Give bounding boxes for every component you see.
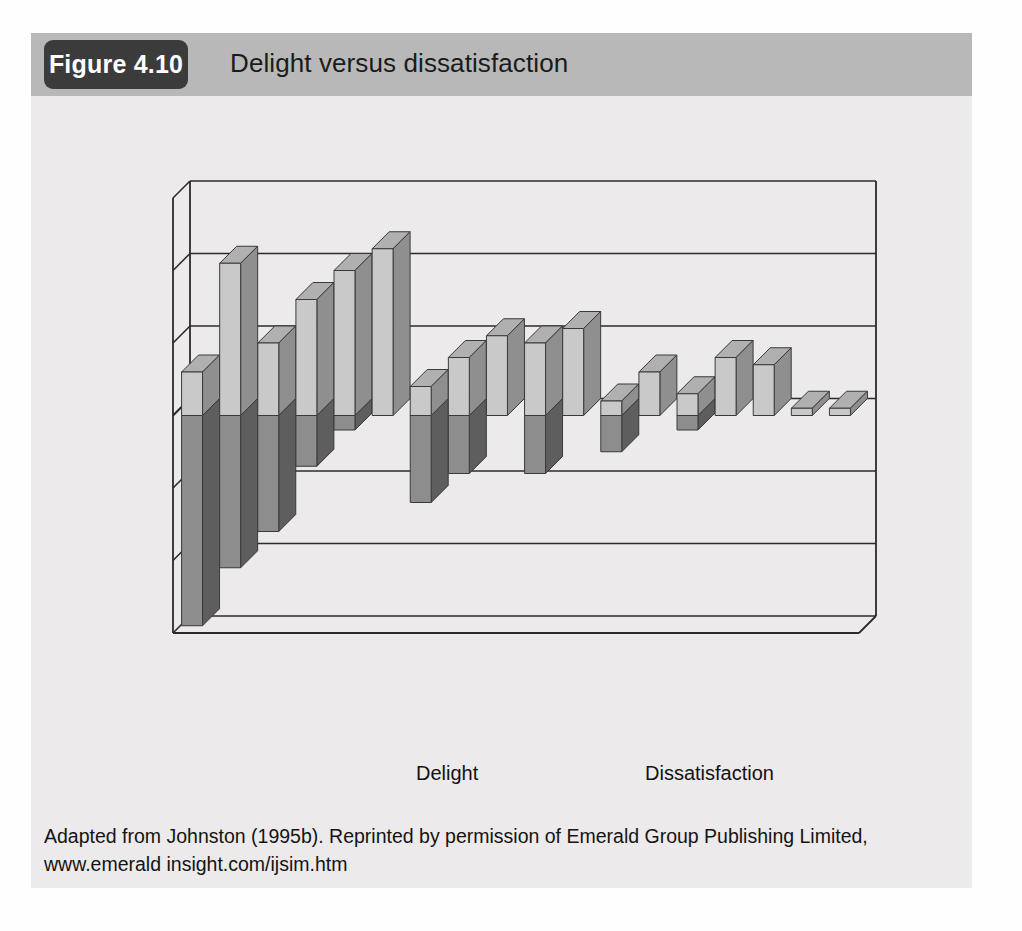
chart-legend: Delight Dissatisfaction xyxy=(31,736,972,806)
figure-number-label: Figure 4.10 xyxy=(49,50,183,79)
figure-card: Figure 4.10 Delight versus dissatisfacti… xyxy=(31,33,972,888)
figure-header: Figure 4.10 Delight versus dissatisfacti… xyxy=(31,33,972,96)
legend-label-delight: Delight xyxy=(416,762,478,785)
figure-page: Figure 4.10 Delight versus dissatisfacti… xyxy=(0,0,1022,931)
legend-item-delight: Delight xyxy=(353,750,478,796)
figure-number-badge: Figure 4.10 xyxy=(44,40,188,89)
figure-caption: Adapted from Johnston (1995b). Reprinted… xyxy=(44,822,954,878)
chart-area: Delight Dissatisfaction xyxy=(31,96,972,819)
legend-item-dissatisfaction: Dissatisfaction xyxy=(582,750,774,796)
delight-cube-icon xyxy=(353,750,399,796)
legend-label-dissatisfaction: Dissatisfaction xyxy=(645,762,774,785)
figure-title: Delight versus dissatisfaction xyxy=(230,48,568,79)
x-axis-category-labels xyxy=(31,96,972,819)
dissatisfaction-cube-icon xyxy=(582,750,628,796)
